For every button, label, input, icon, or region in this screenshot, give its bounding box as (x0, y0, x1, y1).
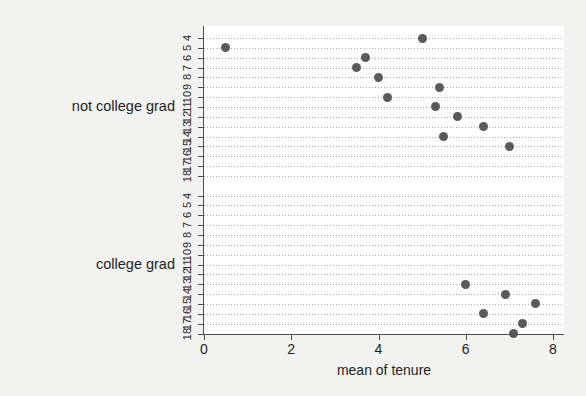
data-point (352, 63, 361, 72)
y-axis-tick (198, 68, 203, 69)
data-point (221, 43, 230, 52)
y-axis-tick (198, 146, 203, 147)
y-axis-tick (198, 255, 203, 256)
data-point (431, 102, 440, 111)
x-axis-tick (291, 334, 292, 340)
y-axis-tick-label: 18 (182, 169, 192, 183)
y-axis-tick (198, 77, 203, 78)
y-axis-tick (198, 127, 203, 128)
data-point (383, 93, 392, 102)
data-point (479, 122, 488, 131)
data-point (531, 299, 540, 308)
y-axis-tick (198, 176, 203, 177)
chart-figure: 4567891011121314151617184567891011121314… (0, 0, 586, 396)
y-axis-tick (198, 235, 203, 236)
y-axis-tick (198, 205, 203, 206)
data-points-layer (204, 26, 564, 334)
data-point (361, 53, 370, 62)
data-point (418, 34, 427, 43)
plot-area (204, 26, 564, 334)
y-axis-line (203, 26, 204, 334)
y-axis-tick (198, 225, 203, 226)
y-axis-tick (198, 196, 203, 197)
data-point (435, 83, 444, 92)
x-axis-tick (379, 334, 380, 340)
y-axis-tick (198, 107, 203, 108)
x-axis-line (203, 334, 564, 335)
y-axis-tick (198, 156, 203, 157)
y-axis-tick (198, 97, 203, 98)
y-axis-tick (198, 265, 203, 266)
y-axis-tick (198, 58, 203, 59)
y-axis-tick (198, 294, 203, 295)
y-axis-tick (198, 166, 203, 167)
data-point (501, 290, 510, 299)
y-axis-tick (198, 334, 203, 335)
x-axis-tick-label: 2 (276, 341, 306, 357)
x-axis-title: mean of tenure (204, 362, 564, 378)
data-point (453, 112, 462, 121)
data-point (461, 280, 470, 289)
y-axis-tick (198, 314, 203, 315)
y-axis-tick (198, 245, 203, 246)
y-axis-tick (198, 284, 203, 285)
y-axis-tick (198, 38, 203, 39)
x-axis-tick (553, 334, 554, 340)
data-point (374, 73, 383, 82)
x-axis-tick-label: 4 (364, 341, 394, 357)
y-axis-tick (198, 304, 203, 305)
y-axis-tick (198, 87, 203, 88)
y-axis-tick-label: 18 (182, 327, 192, 341)
x-axis-tick-label: 8 (538, 341, 568, 357)
x-axis-tick-label: 0 (189, 341, 219, 357)
y-axis-tick (198, 117, 203, 118)
y-axis-tick (198, 324, 203, 325)
x-axis-tick (466, 334, 467, 340)
y-axis-tick (198, 48, 203, 49)
x-axis-tick-label: 6 (451, 341, 481, 357)
y-axis-group-label: college grad (0, 256, 175, 272)
y-axis-tick (198, 137, 203, 138)
data-point (479, 309, 488, 318)
data-point (505, 142, 514, 151)
y-axis-group-label: not college grad (0, 98, 175, 114)
x-axis-tick (204, 334, 205, 340)
data-point (439, 132, 448, 141)
y-axis-tick (198, 215, 203, 216)
data-point (518, 319, 527, 328)
y-axis-tick (198, 274, 203, 275)
